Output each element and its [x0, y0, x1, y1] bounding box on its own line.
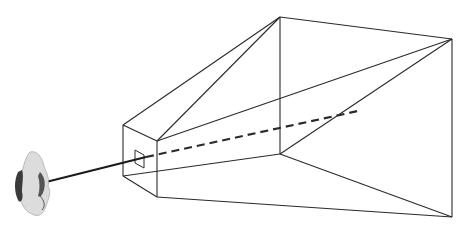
sight-ray: [46, 157, 146, 182]
frustum-edges: [123, 17, 452, 217]
far-plane: [280, 17, 452, 217]
frustum-diagram: [0, 0, 464, 236]
viewer-head-icon: [15, 152, 50, 216]
diagram-canvas: [0, 0, 464, 236]
